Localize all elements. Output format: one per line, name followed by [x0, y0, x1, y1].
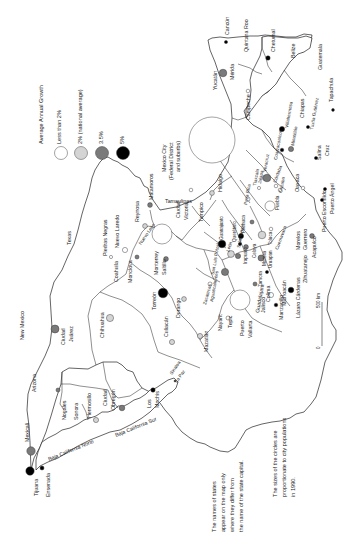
label-cancun: Cancún [224, 17, 230, 35]
label-nuevo-laredo: Nuevo Laredo [114, 215, 120, 248]
label-durango: Durango [175, 298, 181, 318]
mexico-city-label-line1: Mexico City [161, 144, 167, 172]
label-ciudad-juarez-2: Juárez [68, 326, 74, 342]
label-pachuca: Pachuca [241, 215, 246, 233]
label-chetumal: Chetumal [270, 29, 276, 52]
label-belize: Belize [290, 44, 296, 58]
city-marker-durango [182, 297, 187, 302]
city-marker-chetumal [266, 56, 270, 60]
city-marker-culiacan [169, 339, 174, 344]
label-ensenada: Ensenada [45, 473, 51, 497]
city-marker-piedras-negras [109, 255, 112, 258]
legend-label-5-percent: 5% [119, 136, 125, 144]
city-marker-ciudad-juarez [51, 325, 59, 333]
label-villahermosa: Villahermosa [284, 101, 294, 128]
city-marker-irapuato [235, 253, 240, 258]
city-marker-mexico-city [189, 117, 235, 163]
city-marker-coatzacoalcos [280, 148, 284, 152]
label-celaya: Celaya [252, 243, 257, 258]
label-puerto-vallarta-2: Vallarta [247, 320, 253, 338]
label-zihuatanejo: Zihuatanejo [302, 255, 308, 283]
label-ciudad-victoria-2: Victoria [183, 202, 189, 220]
label-saltillo: Saltillo [161, 259, 167, 275]
label-guerrero: Guerrero [302, 229, 308, 250]
city-marker-nogales [56, 388, 60, 392]
label-los-mochis-1: Los [146, 399, 152, 408]
label-puerto-escondido: Puerto Escondido [321, 190, 327, 232]
label-quintana-roo: Quintana Roo [243, 19, 249, 52]
label-salina-cruz-1: Salina [316, 145, 322, 160]
city-marker-tijuana [26, 467, 34, 475]
label-yucatan: Yucatán [212, 71, 218, 90]
city-marker-ensenada [40, 466, 44, 470]
mexico-city-label: Mexico City (Federal District and suburb… [161, 141, 181, 180]
city-marker-minatitlan [288, 146, 293, 151]
label-hidalgo: Hidalgo [217, 174, 223, 192]
city-marker-monclova [135, 255, 139, 259]
note-sizes-line3: in 1990. [290, 477, 296, 497]
label-manzanillo: Manzanillo [278, 295, 284, 320]
label-salina-cruz-2: Cruz [324, 144, 330, 156]
label-puerto-vallarta-1: Puerto [239, 320, 245, 336]
city-marker-hermosillo [93, 417, 98, 422]
note-states-line2: appear on the map only [220, 473, 226, 532]
city-marker-veracruz [263, 174, 271, 182]
label-new-mexico: New Mexico [19, 311, 25, 340]
label-ciudad-obregon-2: Obregón [110, 389, 116, 410]
label-ciudad-obregon-1: Ciudad [102, 389, 108, 406]
city-marker-cordoba [274, 184, 278, 188]
label-acapulco: Acapulco [311, 236, 317, 258]
city-marker-cuernavaca [269, 227, 273, 231]
label-puebla: Puebla [275, 195, 280, 210]
legend-swatch-less-than-2 [55, 147, 68, 160]
legend-title: Average Annual Growth [38, 85, 44, 144]
label-guatemala: Guatemala [317, 44, 323, 70]
label-morelos: Morelos [295, 231, 301, 250]
city-marker-puerto-angel [323, 187, 326, 190]
label-toluca: Toluca [268, 231, 273, 245]
city-marker-torreon [158, 288, 168, 298]
label-zamora: Zamora [258, 271, 263, 287]
city-marker-tapachula [332, 109, 335, 112]
label-queretaro: Querétaro [232, 221, 237, 242]
label-sonora: Sonora [73, 403, 79, 420]
label-merida: Mérida [229, 64, 235, 80]
city-marker-guadalajara [230, 290, 250, 310]
label-reynosa: Reynosa [134, 201, 140, 222]
city-marker-merida [219, 69, 227, 77]
note-states-line4: the name of the state capital. [238, 460, 244, 532]
city-marker-oaxaca [301, 186, 305, 190]
legend-swatch-2-percent [75, 147, 88, 160]
label-oaxaca: Oaxaca [294, 174, 300, 192]
city-marker-matamoros [148, 203, 153, 208]
label-los-mochis-2: Mochis [154, 391, 160, 408]
note-states-line1: The names of states [211, 481, 217, 532]
label-mazatlan: Mazatlán [203, 330, 209, 352]
label-tampico: Tampico [198, 202, 204, 222]
city-marker-ciudad-victoria [189, 188, 193, 192]
city-marker-reynosa [143, 224, 148, 229]
city-marker-mexicali [27, 447, 35, 455]
city-marker-toluca [258, 231, 266, 239]
label-chiapas: Chiapas [299, 98, 305, 118]
label-tepic: Tepic [227, 315, 233, 328]
mexico-city-label-line3: and suburbs) [175, 141, 181, 172]
label-coahuila: Coahuila [113, 261, 119, 282]
city-marker-pachuca [250, 220, 254, 224]
city-marker-uruapan [265, 270, 268, 273]
label-morelia: Morelia [262, 250, 267, 266]
label-culiacan: Culiacán [163, 316, 169, 337]
city-marker-aguascalientes [221, 268, 228, 275]
city-marker-lazaro-cardenas [288, 287, 294, 293]
city-marker-tlaxcala [257, 186, 260, 189]
scale-label-zero: 0 [316, 346, 321, 349]
label-tijuana: Tijuana [33, 479, 39, 496]
city-marker-campeche [246, 89, 250, 93]
label-piedras-negras: Piedras Negras [102, 219, 108, 256]
mexico-city-growth-map: Average Annual Growth Less than 2% 2% (n… [0, 0, 351, 547]
label-mexicali: Mexicali [24, 423, 30, 442]
mexico-city-label-line2: (Federal District [168, 142, 174, 180]
label-matamoros: Matamoros [148, 173, 154, 200]
city-marker-puebla [265, 201, 275, 211]
city-marker-mazatlan [197, 333, 202, 338]
